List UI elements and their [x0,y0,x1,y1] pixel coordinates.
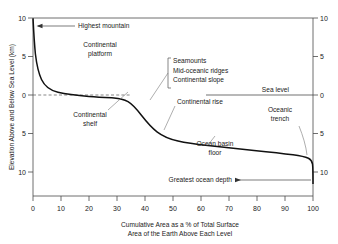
x-label-100: 100 [307,205,319,212]
annotation-ocean-basin-floor-line1: Ocean basin [196,140,233,147]
annotation-highest-mountain-label: Highest mountain [78,22,130,30]
annotation-ocean-basin-floor-line2: floor [209,149,223,156]
annotation-oceanic-trench-line2: trench [271,115,290,122]
annotation-continental-shelf-line1: Continental [73,111,107,118]
annotation-sea-level-label: Sea level [262,86,290,93]
chart-svg: 10 5 0 5 10 10 5 0 5 10 [0,0,338,244]
x-label-90: 90 [281,205,289,212]
x-label-40: 40 [141,205,149,212]
hypsographic-curve-chart: 10 5 0 5 10 10 5 0 5 10 [0,0,338,244]
y-label-right-0: 10 [320,15,328,22]
annotation-continental-shelf-line2: shelf [83,120,97,127]
x-label-0: 0 [31,205,35,212]
y-label-left-0: 10 [18,15,26,22]
annotation-continental-rise-label: Continental rise [177,98,223,105]
y-label-left-4: 10 [18,169,26,176]
y-axis-title: Elevation Above and Below Sea Level (km) [8,44,16,170]
x-label-70: 70 [225,205,233,212]
y-label-right-3: 5 [320,130,324,137]
y-label-right-2: 0 [320,92,324,99]
annotation-oceanic-trench-line1: Oceanic [268,106,293,113]
annotation-greatest-ocean-depth-label: Greatest ocean depth [169,176,233,184]
x-label-60: 60 [197,205,205,212]
x-label-20: 20 [85,205,93,212]
annotation-continental-platform-line1: Continental [83,41,117,48]
x-label-30: 30 [113,205,121,212]
annotation-seamounts-label: Seamounts [173,57,207,64]
x-label-50: 50 [169,205,177,212]
y-label-right-1: 5 [320,53,324,60]
annotation-continental-slope-label: Continental slope [173,76,224,84]
x-axis-title-line2: Area of the Earth Above Each Level [128,230,233,237]
annotation-midoceanic-ridges-label: Mid-oceanic ridges [173,67,229,75]
x-label-80: 80 [253,205,261,212]
y-label-left-1: 5 [22,53,26,60]
y-label-left-3: 5 [22,130,26,137]
y-label-right-4: 10 [320,169,328,176]
y-label-left-2: 0 [22,92,26,99]
x-axis-title-line1: Cumulative Area as a % of Total Surface [121,221,239,228]
annotation-continental-platform-line2: platform [88,50,112,58]
x-label-10: 10 [57,205,65,212]
